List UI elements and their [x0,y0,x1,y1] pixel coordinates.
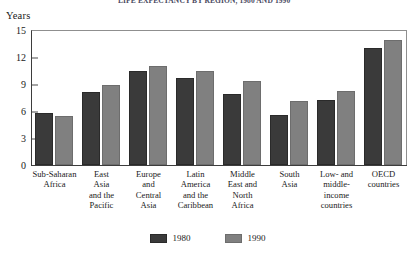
category-label-line: East [78,169,125,179]
category-label-line: middle- [313,179,360,189]
category-label-line: Pacific [78,200,125,210]
legend-label: 1980 [173,234,191,243]
x-axis-category-label: SouthAsia [266,169,313,190]
category-label-line: countries [313,200,360,210]
category-label-line: income [313,190,360,200]
category-label-line: Asia [78,179,125,189]
chart-legend: 19801990 [0,234,415,243]
category-label-line: Latin [172,169,219,179]
category-label-line: Middle [219,169,266,179]
bar-chart-figure: LIFE EXPECTANCY BY REGION, 1980 AND 1990… [0,0,415,257]
bars-layer [31,30,407,165]
legend-item: 1980 [150,234,191,243]
x-axis-category-label: EastAsiaand thePacific [78,169,125,211]
y-axis-tick-label: 15 [16,26,26,36]
bar-group [31,30,78,165]
bar-1980 [35,113,53,165]
category-label-line: North [219,190,266,200]
category-label-line: East and [219,179,266,189]
bar-group [313,30,360,165]
bar-1980 [317,100,335,165]
category-label-line: Africa [219,200,266,210]
y-axis-tick-label: 0 [21,161,26,171]
category-label-line: South [266,169,313,179]
x-axis-category-labels: Sub-SaharanAfricaEastAsiaand thePacificE… [31,169,407,225]
bar-group [172,30,219,165]
bar-1980 [82,92,100,165]
category-label-line: and the [78,190,125,200]
y-axis-title: Years [6,10,30,21]
y-axis-tick-label: 3 [21,134,26,144]
y-axis-tick-label: 6 [21,107,26,117]
bar-1990 [243,81,261,165]
category-label-line: Europe [125,169,172,179]
bar-group [360,30,407,165]
bar-1980 [223,94,241,165]
category-label-line: Central [125,190,172,200]
y-axis-tick-label: 9 [21,80,26,90]
legend-swatch [225,234,242,243]
bar-group [266,30,313,165]
bar-group [219,30,266,165]
category-label-line: countries [360,179,407,189]
chart-title-clipped: LIFE EXPECTANCY BY REGION, 1980 AND 1990 [118,0,408,5]
x-axis-category-label: MiddleEast andNorthAfrica [219,169,266,211]
bar-1980 [364,48,382,165]
category-label-line: Africa [31,179,78,189]
bar-1980 [270,115,288,165]
bar-1980 [176,78,194,165]
bar-1980 [129,71,147,165]
category-label-line: Asia [125,200,172,210]
x-axis-category-label: Low- andmiddle-incomecountries [313,169,360,211]
x-axis-category-label: Sub-SaharanAfrica [31,169,78,190]
category-label-line: Asia [266,179,313,189]
legend-item: 1990 [225,234,266,243]
category-label-line: Caribbean [172,200,219,210]
legend-label: 1990 [248,234,266,243]
x-axis-category-label: LatinAmericaand theCaribbean [172,169,219,211]
category-label-line: Sub-Saharan [31,169,78,179]
bar-1990 [290,101,308,165]
bar-1990 [337,91,355,165]
category-label-line: and the [172,190,219,200]
bar-1990 [384,40,402,165]
bar-1990 [102,85,120,165]
category-label-line: America [172,179,219,189]
bar-1990 [149,66,167,165]
category-label-line: and [125,179,172,189]
bar-group [78,30,125,165]
x-axis-line [31,165,407,166]
bar-1990 [55,116,73,166]
category-label-line: OECD [360,169,407,179]
x-axis-category-label: OECDcountries [360,169,407,190]
bar-1990 [196,71,214,166]
x-axis-category-label: EuropeandCentralAsia [125,169,172,211]
legend-swatch [150,234,167,243]
bar-group [125,30,172,165]
category-label-line: Low- and [313,169,360,179]
y-axis-tick-label: 12 [16,53,26,63]
